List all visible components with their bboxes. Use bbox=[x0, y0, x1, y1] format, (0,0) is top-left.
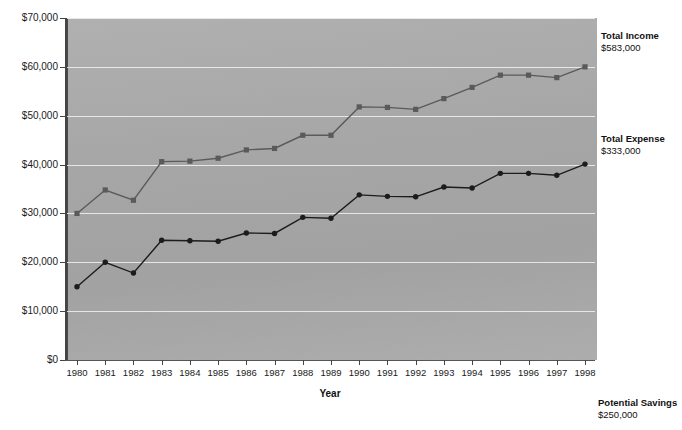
annotation-total-income: Total Income $583,000 bbox=[601, 30, 682, 54]
data-point bbox=[244, 147, 249, 152]
data-point bbox=[413, 107, 418, 112]
data-point bbox=[216, 156, 221, 161]
data-point bbox=[131, 270, 136, 275]
data-point bbox=[103, 187, 108, 192]
annotation-total-expense-title: Total Expense bbox=[601, 133, 682, 145]
annotation-potential-savings: Potential Savings $250,000 bbox=[598, 397, 682, 421]
data-point bbox=[131, 198, 136, 203]
data-point bbox=[385, 105, 390, 110]
data-point bbox=[300, 133, 305, 138]
data-point bbox=[159, 238, 164, 243]
annotation-total-income-title: Total Income bbox=[601, 30, 682, 42]
data-point bbox=[357, 192, 362, 197]
data-point bbox=[526, 73, 531, 78]
data-point bbox=[385, 194, 390, 199]
data-point bbox=[441, 96, 446, 101]
data-point bbox=[187, 238, 192, 243]
data-point bbox=[498, 171, 503, 176]
annotation-total-income-value: $583,000 bbox=[601, 42, 682, 54]
data-point bbox=[74, 211, 79, 216]
data-point bbox=[554, 173, 559, 178]
data-point bbox=[498, 73, 503, 78]
series-layer bbox=[0, 0, 682, 430]
annotation-total-expense: Total Expense $333,000 bbox=[601, 133, 682, 157]
data-point bbox=[187, 159, 192, 164]
annotation-potential-savings-value: $250,000 bbox=[598, 409, 682, 421]
data-point bbox=[159, 159, 164, 164]
data-point bbox=[328, 133, 333, 138]
annotation-potential-savings-title: Potential Savings bbox=[598, 397, 682, 409]
data-point bbox=[441, 184, 446, 189]
data-point bbox=[244, 230, 249, 235]
data-point bbox=[74, 284, 79, 289]
data-point bbox=[357, 104, 362, 109]
data-point bbox=[215, 239, 220, 244]
data-point bbox=[582, 161, 587, 166]
x-axis-title: Year bbox=[0, 388, 660, 399]
data-point bbox=[526, 171, 531, 176]
chart-area: $0$10,000$20,000$30,000$40,000$50,000$60… bbox=[0, 0, 682, 430]
data-point bbox=[470, 85, 475, 90]
data-point bbox=[328, 216, 333, 221]
series-line-total-income bbox=[77, 67, 585, 214]
data-point bbox=[554, 75, 559, 80]
data-point bbox=[469, 185, 474, 190]
series-line-total-expense bbox=[77, 164, 585, 287]
data-point bbox=[582, 64, 587, 69]
annotation-total-expense-value: $333,000 bbox=[601, 145, 682, 157]
data-point bbox=[300, 215, 305, 220]
data-point bbox=[103, 260, 108, 265]
data-point bbox=[272, 146, 277, 151]
data-point bbox=[413, 194, 418, 199]
data-point bbox=[272, 231, 277, 236]
